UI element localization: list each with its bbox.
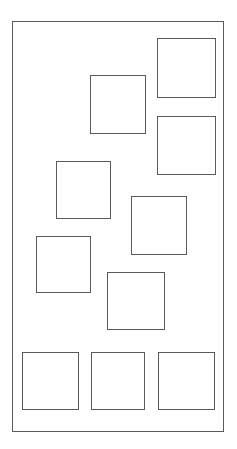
square-lower-left: square-lower-left [36, 236, 91, 293]
square-bottom-center: square-bottom-center [91, 352, 145, 410]
square-bottom-left: square-bottom-left [22, 352, 79, 410]
square-lower-center: square-lower-center [107, 272, 165, 330]
square-top-right: square-top-right [157, 38, 216, 98]
square-left-middle: square-left-middle [56, 161, 111, 219]
square-center-right: square-center-right [131, 196, 187, 255]
diagram-canvas: square-top-rightsquare-upper-middlesquar… [0, 0, 237, 449]
square-upper-middle: square-upper-middle [90, 75, 146, 134]
square-right-upper-middle: square-right-upper-middle [157, 116, 216, 175]
square-bottom-right: square-bottom-right [158, 352, 215, 410]
